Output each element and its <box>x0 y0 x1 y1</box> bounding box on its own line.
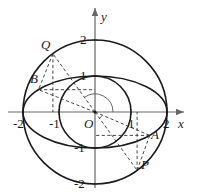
x-tick-label-neg2: -2 <box>13 117 24 130</box>
angle-arcs-group <box>84 94 113 119</box>
y-tick-label-neg1: -1 <box>74 141 85 154</box>
figure-canvas <box>0 0 197 195</box>
y-tick-label-pos2: 2 <box>80 33 87 46</box>
right-angle-arc-lower <box>100 116 103 119</box>
y-axis-label: y <box>101 10 107 23</box>
x-tick-label-pos1: 1 <box>128 117 135 130</box>
x-tick-label-pos2: 2 <box>163 117 170 130</box>
point-origin-dot <box>93 110 96 113</box>
x-axis-arrowhead <box>176 109 184 115</box>
geometry-figure: y x -2 -1 1 2 2 1 -1 -2 O Q B A P <box>0 0 197 195</box>
x-tick-label-neg1: -1 <box>49 117 60 130</box>
point-label-Q: Q <box>41 38 50 51</box>
origin-label: O <box>84 117 93 130</box>
point-label-A: A <box>151 128 159 141</box>
y-tick-label-pos1: 1 <box>80 69 87 82</box>
point-label-P: P <box>141 158 149 171</box>
axes-group <box>8 8 184 188</box>
y-axis-arrowhead <box>92 8 98 16</box>
y-tick-label-neg2: -2 <box>74 177 85 190</box>
x-axis-label: x <box>178 117 184 130</box>
points-group <box>93 110 96 113</box>
point-label-B: B <box>30 72 38 85</box>
